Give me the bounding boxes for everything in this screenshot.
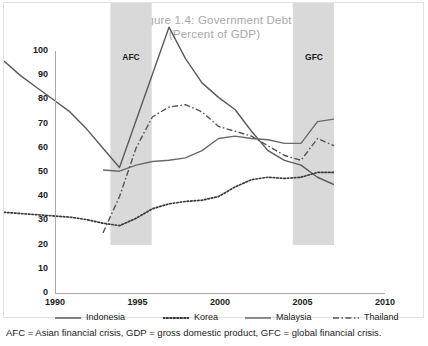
x-tick-2010: 2010: [362, 297, 408, 307]
chart-plot: [4, 3, 334, 246]
legend-label-indonesia: Indonesia: [86, 312, 125, 322]
chart-legend: IndonesiaKoreaMalaysiaThailand: [55, 310, 395, 324]
y-tick-100: 100: [14, 45, 48, 55]
y-tick-90: 90: [14, 69, 48, 79]
x-tick-1995: 1995: [115, 297, 161, 307]
legend-label-korea: Korea: [194, 312, 218, 322]
legend-swatch-malaysia-icon: [245, 313, 271, 322]
legend-swatch-indonesia-icon: [55, 313, 81, 322]
y-tick-30: 30: [14, 214, 48, 224]
legend-swatch-korea-icon: [163, 313, 189, 322]
afc-shaded-band: [110, 3, 151, 245]
y-tick-80: 80: [14, 93, 48, 103]
gfc-shaded-band: [293, 3, 334, 245]
legend-swatch-thailand-icon: [333, 313, 359, 322]
legend-item-korea[interactable]: Korea: [163, 310, 218, 324]
afc-band-label: AFC: [110, 52, 152, 62]
legend-label-thailand: Thailand: [364, 312, 399, 322]
series-line-korea: [4, 172, 334, 225]
y-tick-40: 40: [14, 190, 48, 200]
y-axis-line: [55, 51, 56, 294]
figure-footnote: AFC = Asian financial crisis, GDP = gros…: [6, 327, 424, 338]
x-tick-1990: 1990: [32, 297, 78, 307]
x-tick-2005: 2005: [280, 297, 326, 307]
legend-label-malaysia: Malaysia: [276, 312, 312, 322]
x-axis-line: [55, 293, 385, 294]
series-group: [4, 27, 334, 233]
figure-container: Figure 1.4: Government Debt (Percent of …: [3, 2, 424, 318]
y-tick-70: 70: [14, 118, 48, 128]
y-tick-50: 50: [14, 166, 48, 176]
x-tick-2000: 2000: [197, 297, 243, 307]
legend-item-malaysia[interactable]: Malaysia: [245, 310, 312, 324]
y-tick-10: 10: [14, 263, 48, 273]
y-tick-60: 60: [14, 142, 48, 152]
y-tick-0: 0: [14, 287, 48, 297]
legend-item-thailand[interactable]: Thailand: [333, 310, 399, 324]
gfc-band-label: GFC: [293, 52, 335, 62]
y-tick-20: 20: [14, 239, 48, 249]
legend-item-indonesia[interactable]: Indonesia: [55, 310, 125, 324]
